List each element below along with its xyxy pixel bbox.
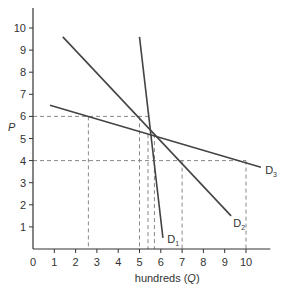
x-tick-label: 2: [73, 256, 79, 268]
x-tick-label: 3: [94, 256, 100, 268]
curve-label-d2: D2: [233, 217, 245, 231]
y-tick-label: 7: [20, 88, 26, 100]
curve-label-d1: D1: [167, 233, 179, 247]
y-tick-label: 2: [20, 199, 26, 211]
x-tick-label: 9: [222, 256, 228, 268]
x-tick-label: 1: [51, 256, 57, 268]
y-tick-label: 9: [20, 44, 26, 56]
y-tick-label: 4: [20, 155, 26, 167]
x-tick-label: 5: [136, 256, 142, 268]
y-tick-label: 10: [14, 22, 26, 34]
demand-curves: [50, 37, 261, 238]
x-tick-label: 4: [115, 256, 121, 268]
x-axis-title: hundreds (Q): [135, 272, 200, 284]
y-tick-label: 1: [20, 221, 26, 233]
x-tick-label: 10: [240, 256, 252, 268]
y-axis-title: P: [8, 121, 16, 133]
curve-d3: [50, 105, 261, 167]
chart: 01234567891012345678910hundreds (Q)PD1D2…: [0, 0, 290, 288]
x-tick-label: 0: [30, 256, 36, 268]
x-tick-label: 7: [179, 256, 185, 268]
x-tick-label: 6: [158, 256, 164, 268]
curve-label-d3: D3: [265, 164, 277, 178]
x-tick-label: 8: [200, 256, 206, 268]
y-tick-label: 6: [20, 110, 26, 122]
reference-dashed-lines: [33, 116, 246, 249]
y-tick-label: 8: [20, 66, 26, 78]
y-tick-label: 3: [20, 177, 26, 189]
y-tick-label: 5: [20, 133, 26, 145]
